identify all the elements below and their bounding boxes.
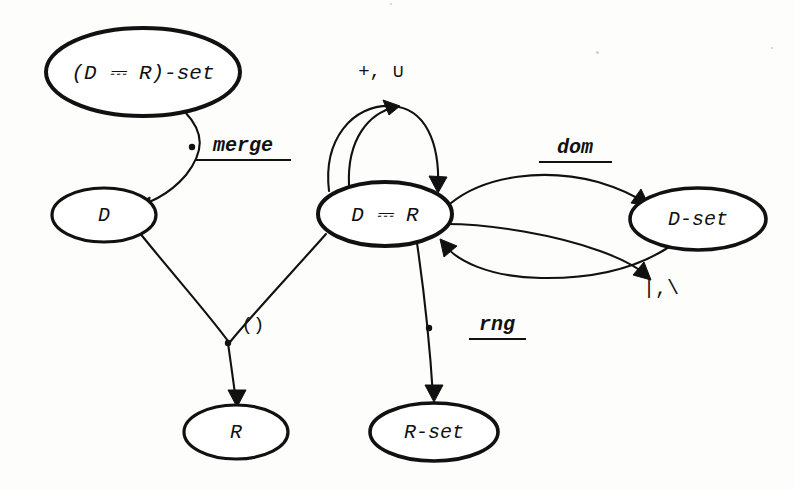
diagram-svg: (D ⎓ R)-setDD ⎓ RD-setRR-set merge+, ∪do… <box>0 0 795 490</box>
edge-path-apply-from-d <box>139 232 228 341</box>
diagram-canvas: (D ⎓ R)-setDD ⎓ RD-setRR-set merge+, ∪do… <box>0 0 795 490</box>
edge-restrict-lower <box>446 224 651 280</box>
node-label-r: R <box>230 421 242 444</box>
edge-path-plus-union-outer <box>328 106 438 191</box>
node-label-d-set: D-set <box>668 208 728 231</box>
edge-path-dom <box>451 175 645 203</box>
node-label-r-set: R-set <box>404 421 464 444</box>
edge-label-text-merge: merge <box>212 134 273 157</box>
edge-label-merge: merge <box>196 134 291 160</box>
edge-label-rng: rng <box>469 313 526 339</box>
scan-speck <box>771 47 773 49</box>
edge-label-text-plus-union-inner: +, ∪ <box>358 61 404 83</box>
edge-rng <box>417 243 443 402</box>
edge-apply-to-r <box>228 343 246 407</box>
edge-restrict <box>440 239 669 278</box>
arrowhead-rng <box>425 385 443 402</box>
edge-plus-union-inner <box>349 100 400 185</box>
edge-path-rng <box>417 243 433 396</box>
edge-label-text-apply-from-d: () <box>242 314 265 336</box>
edge-label-dom: dom <box>539 136 612 162</box>
node-label-dr-set: (D ⎓ R)-set <box>71 62 214 85</box>
edge-dot-rng <box>426 325 432 331</box>
node-label-dr: D ⎓ R <box>351 204 419 227</box>
scan-speck <box>596 51 599 54</box>
edge-path-plus-union-inner <box>349 107 396 185</box>
edge-label-text-restrict: |,\ <box>643 277 679 300</box>
edge-dot-merge <box>189 144 195 150</box>
edge-dom <box>451 175 649 206</box>
scan-speck <box>390 3 392 5</box>
edge-label-text-rng: rng <box>479 313 515 336</box>
node-dr[interactable]: D ⎓ R <box>318 182 452 246</box>
edge-apply-from-d <box>139 232 231 346</box>
node-r-set[interactable]: R-set <box>370 403 498 461</box>
edge-label-plus-union-inner: +, ∪ <box>358 61 404 83</box>
node-d[interactable]: D <box>52 188 156 242</box>
edge-label-apply-from-d: () <box>242 314 265 336</box>
node-label-d: D <box>98 204 110 227</box>
edge-plus-union-outer <box>328 106 447 193</box>
edge-path-merge <box>133 112 200 206</box>
edge-label-restrict: |,\ <box>643 277 679 300</box>
edge-label-text-dom: dom <box>557 136 593 159</box>
node-r[interactable]: R <box>184 405 288 459</box>
nodes-layer: (D ⎓ R)-setDD ⎓ RD-setRR-set <box>46 28 766 461</box>
node-d-set[interactable]: D-set <box>630 188 766 250</box>
node-dr-set[interactable]: (D ⎓ R)-set <box>46 28 240 116</box>
